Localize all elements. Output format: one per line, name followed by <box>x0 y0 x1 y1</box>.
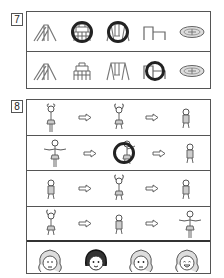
face-dark-hair-icon[interactable] <box>81 246 111 276</box>
answer-circle <box>113 142 135 164</box>
question-8-frame <box>26 99 211 274</box>
question-number-8: 8 <box>11 100 23 113</box>
question-7-row-1 <box>27 12 210 51</box>
question-8-faces-row <box>27 240 210 278</box>
question-7-row-2 <box>27 51 210 90</box>
girl-arms-up-squat-icon[interactable] <box>109 102 129 134</box>
answer-circle <box>145 61 165 81</box>
question-8-row-3 <box>27 170 210 206</box>
girl-arms-up-icon[interactable] <box>41 102 61 134</box>
face-crying-icon[interactable] <box>35 246 65 276</box>
swing-icon[interactable] <box>103 56 133 86</box>
girl-crouch-icon[interactable] <box>176 102 196 134</box>
girl-arms-out-icon[interactable] <box>41 137 69 169</box>
answer-circle <box>107 21 129 43</box>
right-arrow-icon <box>78 219 92 228</box>
horizontal-bar-icon[interactable] <box>140 17 170 47</box>
slide-icon[interactable] <box>30 56 60 86</box>
question-8-row-1 <box>27 100 210 135</box>
girl-arms-up-squat-icon[interactable] <box>41 208 61 240</box>
swing-icon[interactable] <box>103 17 133 47</box>
right-arrow-icon <box>83 149 97 158</box>
question-7-frame <box>26 11 211 89</box>
girl-crouch-icon[interactable] <box>41 173 61 205</box>
horizontal-bar-icon[interactable] <box>140 56 170 86</box>
face-worried-icon[interactable] <box>126 246 156 276</box>
right-arrow-icon <box>145 184 159 193</box>
face-laughing-icon[interactable] <box>172 246 202 276</box>
girl-arms-out-icon[interactable] <box>176 208 204 240</box>
right-arrow-icon <box>145 113 159 122</box>
jungle-gym-icon[interactable] <box>67 56 97 86</box>
right-arrow-icon <box>78 113 92 122</box>
question-number-7: 7 <box>11 13 23 26</box>
slide-icon[interactable] <box>30 17 60 47</box>
girl-crouch-icon[interactable] <box>109 208 129 240</box>
question-8-row-2 <box>27 135 210 170</box>
girl-arms-up-squat-icon[interactable] <box>109 173 129 205</box>
answer-circle <box>71 21 93 43</box>
girl-crouch-icon[interactable] <box>180 137 200 169</box>
right-arrow-icon <box>145 219 159 228</box>
right-arrow-icon <box>152 149 166 158</box>
merry-go-round-icon[interactable] <box>177 56 207 86</box>
merry-go-round-icon[interactable] <box>177 17 207 47</box>
question-8-row-4 <box>27 206 210 240</box>
jungle-gym-icon[interactable] <box>67 17 97 47</box>
girl-arms-up-squat-icon[interactable] <box>111 137 139 169</box>
girl-crouch-icon[interactable] <box>176 173 196 205</box>
right-arrow-icon <box>78 184 92 193</box>
